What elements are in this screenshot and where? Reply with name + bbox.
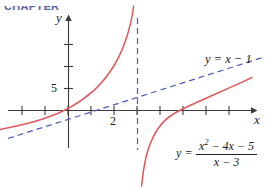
slant-asymptote-line	[8, 58, 262, 139]
figure-graph-rational-function: CHAPTER	[0, 0, 280, 187]
slant-asymptote-label: y = x − 1	[205, 52, 252, 67]
rational-function-label: y=x2 − 4x − 5x − 3	[176, 140, 257, 169]
equation-denominator: x − 3	[196, 155, 257, 169]
curve-right-branch	[142, 78, 253, 187]
equation-lhs: y	[176, 146, 181, 160]
equation-numerator: x2 − 4x − 5	[196, 140, 257, 155]
x-tick-label-2: 2	[110, 114, 116, 129]
y-axis-label: y	[56, 10, 62, 26]
y-tick-label-5: 5	[51, 81, 57, 96]
equation-fraction: x2 − 4x − 5x − 3	[196, 140, 257, 169]
x-axis-label: x	[254, 112, 260, 128]
equation-equals: =	[185, 146, 192, 160]
y-axis	[64, 20, 73, 148]
x-axis	[8, 106, 252, 115]
